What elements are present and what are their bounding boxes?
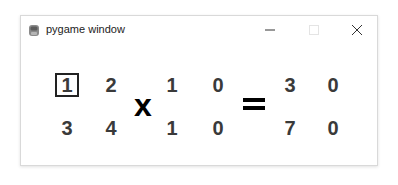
- pygame-snake-icon: [28, 23, 40, 36]
- result-cell-1-0: 7: [276, 114, 304, 142]
- matrix-b-cell-0-1[interactable]: 0: [204, 71, 232, 99]
- matrix-a-cell-0-0[interactable]: 1: [55, 73, 79, 97]
- equals-bar-top: [243, 98, 265, 102]
- result-cell-0-0: 3: [276, 71, 304, 99]
- window-title: pygame window: [46, 23, 125, 36]
- matrix-b-cell-0-0[interactable]: 1: [158, 71, 186, 99]
- maximize-icon: [309, 21, 319, 39]
- equals-operator: [243, 98, 265, 112]
- multiply-operator: x: [128, 87, 158, 123]
- game-canvas[interactable]: 1 2 3 4 x 1 0 1 0 3 0 7 0: [21, 44, 377, 166]
- pygame-window: pygame window: [20, 15, 378, 166]
- matrix-b-cell-1-1[interactable]: 0: [204, 114, 232, 142]
- equals-bar-bottom: [243, 106, 265, 110]
- close-icon: [352, 21, 362, 39]
- matrix-b-cell-1-0[interactable]: 1: [158, 114, 186, 142]
- matrix-a-cell-1-1[interactable]: 4: [97, 114, 125, 142]
- maximize-button[interactable]: [292, 16, 336, 44]
- minimize-icon: [265, 21, 275, 39]
- matrix-a-cell-1-0[interactable]: 3: [53, 114, 81, 142]
- matrix-a-cell-0-1[interactable]: 2: [97, 71, 125, 99]
- result-cell-1-1: 0: [319, 114, 347, 142]
- minimize-button[interactable]: [248, 16, 292, 44]
- result-cell-0-1: 0: [319, 71, 347, 99]
- title-bar[interactable]: pygame window: [21, 16, 377, 44]
- close-button[interactable]: [335, 16, 379, 44]
